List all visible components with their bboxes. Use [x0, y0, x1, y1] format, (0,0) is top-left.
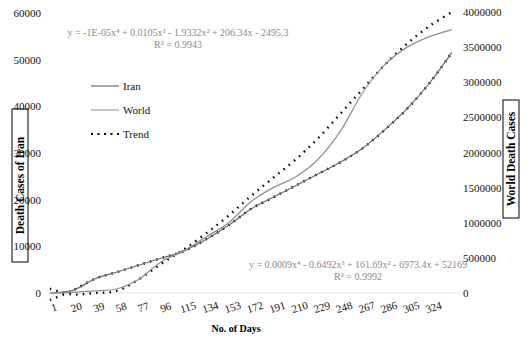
- right-y-tick-label: 2500000: [463, 111, 502, 123]
- legend-world-label: World: [123, 104, 151, 116]
- x-tick-label: 229: [312, 299, 332, 316]
- left-axis-title: Death Cases of Iran: [12, 109, 28, 262]
- legend-iran-label: Iran: [123, 80, 141, 92]
- x-tick-label: 115: [178, 299, 197, 316]
- x-tick-label: 1: [50, 300, 59, 313]
- x-tick-label: 134: [201, 299, 221, 316]
- x-tick-label: 58: [114, 299, 129, 314]
- dual-axis-line-chart: 0100002000030000400005000060000 05000001…: [0, 0, 530, 339]
- right-y-tick-label: 0: [463, 287, 469, 299]
- right-y-tick-label: 500000: [463, 252, 497, 264]
- x-tick-label: 96: [159, 299, 174, 314]
- right-y-tick-label: 4000000: [463, 6, 502, 18]
- x-tick-label: 77: [136, 299, 151, 314]
- left-y-tick-label: 60000: [14, 7, 42, 19]
- x-ticks: 1203958779611513415317219121022924826728…: [50, 299, 444, 316]
- right-y-tick-label: 2000000: [463, 147, 502, 159]
- x-tick-label: 39: [92, 299, 107, 314]
- legend: Iran World Trend: [91, 80, 151, 140]
- right-y-tick-label: 1500000: [463, 182, 502, 194]
- iran-series-line: [50, 53, 452, 293]
- x-tick-label: 191: [268, 299, 287, 316]
- right-axis-title: World Death Cases: [503, 100, 519, 218]
- legend-trend-label: Trend: [123, 128, 149, 140]
- left-axis-title-text: Death Cases of Iran: [14, 136, 26, 234]
- x-tick-label: 248: [335, 299, 355, 316]
- world-trend-equation: y = -1E-05x⁴ + 0.0105x³ - 1.9332x² + 206…: [68, 27, 289, 38]
- x-tick-label: 305: [401, 299, 421, 316]
- x-tick-label: 324: [424, 299, 444, 316]
- x-tick-label: 286: [379, 299, 399, 316]
- right-axis-title-text: World Death Cases: [505, 111, 517, 206]
- right-y-tick-label: 3000000: [463, 76, 502, 88]
- left-y-tick-label: 50000: [14, 54, 42, 66]
- world-trend-line: [50, 12, 452, 295]
- x-tick-label: 20: [69, 299, 84, 314]
- right-y-ticks: 0500000100000015000002000000250000030000…: [463, 6, 502, 299]
- iran-trend-r2: R² = 0.9992: [334, 271, 382, 282]
- left-y-tick-label: 0: [36, 287, 42, 299]
- right-y-tick-label: 3500000: [463, 41, 502, 53]
- x-tick-label: 172: [245, 299, 264, 316]
- x-tick-label: 267: [357, 299, 377, 316]
- x-tick-label: 210: [290, 299, 310, 316]
- x-axis-title: No. of Days: [211, 323, 260, 334]
- x-tick-label: 153: [223, 299, 243, 316]
- iran-trend-equation: y = 0.0009x⁴ - 0.6492x³ + 161.69x² - 697…: [249, 259, 467, 270]
- plot-area: [50, 12, 452, 300]
- world-trend-r2: R² = 0.9943: [154, 39, 202, 50]
- world-series-line: [50, 30, 452, 293]
- right-y-tick-label: 1000000: [463, 217, 502, 229]
